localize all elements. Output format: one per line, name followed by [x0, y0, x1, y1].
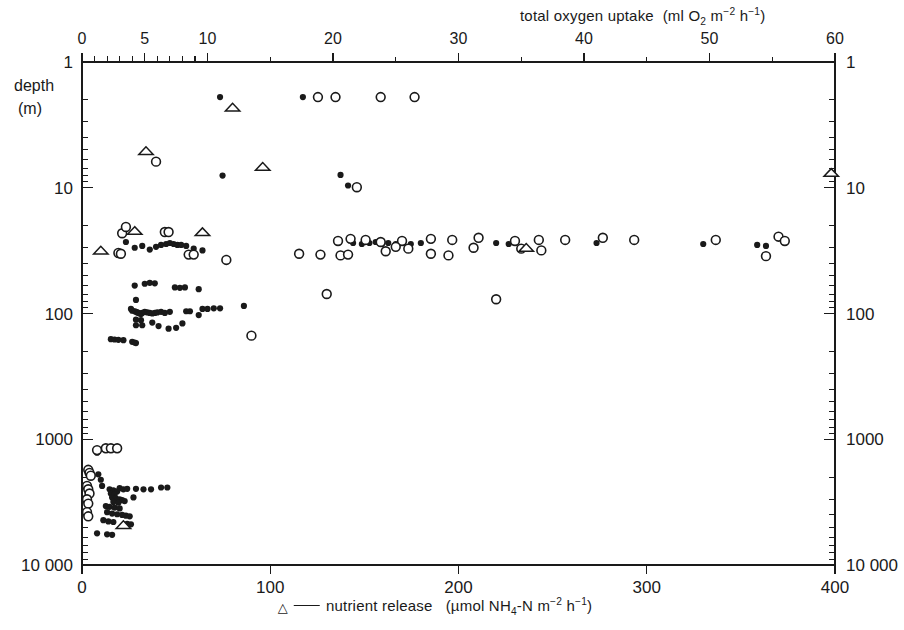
tick-label-left-100: 100 — [45, 305, 73, 322]
tick-label-right-100: 100 — [846, 305, 874, 322]
data-point-filled-circle-105 — [133, 486, 139, 492]
data-point-filled-circle-64 — [133, 322, 139, 328]
data-point-filled-circle-78 — [241, 303, 247, 309]
data-point-open-circle-21 — [334, 237, 343, 246]
data-point-open-circle-47 — [93, 446, 102, 455]
data-point-filled-circle-38 — [152, 280, 158, 286]
data-point-filled-circle-76 — [217, 305, 223, 311]
tick-label-right-1: 1 — [846, 54, 855, 71]
data-point-open-circle-46 — [247, 331, 256, 340]
data-point-open-triangle-4 — [94, 246, 108, 254]
data-point-filled-circle-87 — [95, 471, 101, 477]
data-point-open-circle-13 — [189, 250, 198, 259]
data-point-open-circle-44 — [322, 290, 331, 299]
data-point-filled-circle-123 — [110, 519, 116, 525]
data-point-open-circle-0 — [314, 93, 323, 102]
tick-label-left-10: 10 — [54, 179, 73, 196]
data-point-open-circle-53 — [86, 471, 95, 480]
data-point-filled-circle-72 — [187, 308, 193, 314]
data-point-open-circle-60 — [84, 512, 93, 521]
data-point-open-circle-39 — [537, 246, 546, 255]
data-point-open-circle-20 — [444, 251, 453, 260]
tick-label-bottom-400: 400 — [821, 579, 849, 596]
data-point-open-circle-34 — [711, 236, 720, 245]
tick-label-bottom-100: 100 — [256, 579, 284, 596]
data-point-open-circle-14 — [222, 256, 231, 265]
data-point-open-circle-7 — [122, 223, 131, 232]
tick-label-top-30: 30 — [450, 31, 468, 47]
data-point-open-circle-28 — [474, 233, 483, 242]
data-point-open-circle-1 — [331, 93, 340, 102]
data-point-filled-circle-114 — [117, 505, 123, 511]
data-point-open-circle-58 — [84, 499, 93, 508]
data-point-open-circle-22 — [346, 234, 355, 243]
data-point-open-triangle-5 — [195, 228, 209, 236]
tick-label-left-10000: 10 000 — [21, 557, 73, 574]
data-point-open-circle-33 — [630, 236, 639, 245]
data-point-filled-circle-28 — [418, 240, 424, 246]
data-point-filled-circle-61 — [167, 309, 173, 315]
data-point-filled-circle-33 — [754, 242, 760, 248]
data-point-filled-circle-82 — [120, 337, 126, 343]
data-point-filled-circle-29 — [493, 240, 499, 246]
data-point-filled-circle-68 — [165, 326, 171, 332]
tick-label-top-0: 0 — [78, 31, 87, 47]
tick-label-top-60: 60 — [826, 31, 844, 47]
data-point-open-circle-2 — [376, 93, 385, 102]
tick-label-right-1000: 1000 — [846, 431, 884, 448]
data-point-open-circle-24 — [376, 238, 385, 247]
data-point-open-circle-31 — [561, 236, 570, 245]
data-point-filled-circle-77 — [196, 312, 202, 318]
data-point-open-circle-50 — [113, 444, 122, 453]
data-point-open-circle-37 — [469, 243, 478, 252]
data-point-filled-circle-126 — [94, 530, 100, 536]
data-point-filled-circle-2 — [219, 172, 225, 178]
data-point-open-triangle-7 — [824, 169, 838, 177]
data-point-open-circle-26 — [426, 234, 435, 243]
data-point-filled-circle-24 — [385, 240, 391, 246]
data-point-filled-circle-66 — [149, 319, 155, 325]
tick-label-top-20: 20 — [324, 31, 342, 47]
data-point-filled-circle-0 — [217, 94, 223, 100]
data-point-open-circle-19 — [426, 249, 435, 258]
data-point-filled-circle-75 — [211, 305, 217, 311]
data-point-filled-circle-110 — [130, 494, 136, 500]
data-point-filled-circle-8 — [147, 246, 153, 252]
data-point-filled-circle-67 — [155, 323, 161, 329]
data-point-open-circle-18 — [344, 250, 353, 259]
data-point-open-circle-41 — [391, 242, 400, 251]
data-point-filled-circle-1 — [300, 94, 306, 100]
data-point-open-triangle-1 — [139, 147, 153, 155]
data-point-filled-circle-107 — [148, 486, 154, 492]
data-point-open-circle-42 — [404, 244, 413, 253]
data-point-open-circle-16 — [316, 250, 325, 259]
data-point-open-circle-23 — [361, 236, 370, 245]
data-point-open-circle-32 — [598, 233, 607, 242]
data-point-filled-circle-97 — [124, 486, 130, 492]
data-point-open-circle-40 — [762, 252, 771, 261]
data-point-open-circle-9 — [164, 228, 173, 237]
scatter-plot-figure: total oxygen uptake (ml O2 m−2 h−1) dept… — [0, 0, 904, 630]
tick-label-top-5: 5 — [140, 31, 149, 47]
data-point-filled-circle-6 — [132, 245, 138, 251]
data-point-filled-circle-34 — [763, 243, 769, 249]
tick-label-right-10: 10 — [846, 179, 865, 196]
tick-label-top-50: 50 — [701, 31, 719, 47]
tick-label-left-1000: 1000 — [35, 431, 73, 448]
data-point-open-circle-27 — [448, 236, 457, 245]
data-point-open-circle-29 — [511, 237, 520, 246]
tick-label-top-40: 40 — [575, 31, 593, 47]
data-point-open-circle-30 — [534, 236, 543, 245]
data-point-filled-circle-70 — [179, 320, 185, 326]
data-point-filled-circle-7 — [139, 243, 145, 249]
data-point-filled-circle-109 — [164, 484, 170, 490]
data-point-filled-circle-18 — [199, 247, 205, 253]
tick-label-bottom-300: 300 — [633, 579, 661, 596]
data-point-open-circle-3 — [410, 93, 419, 102]
data-point-filled-circle-106 — [140, 486, 146, 492]
data-point-filled-circle-69 — [173, 325, 179, 331]
data-point-open-circle-15 — [295, 249, 304, 258]
data-point-open-triangle-0 — [225, 103, 239, 111]
data-point-filled-circle-32 — [700, 241, 706, 247]
data-point-filled-circle-74 — [204, 306, 210, 312]
